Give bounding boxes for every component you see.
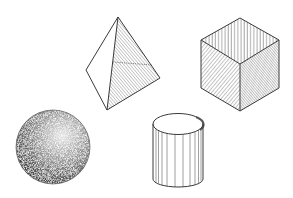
tetrahedron-shape [86, 17, 160, 110]
sphere-body [16, 110, 90, 184]
cylinder-top-face [153, 114, 203, 135]
cylinder-shape [153, 114, 204, 188]
geometric-shapes-diagram [0, 0, 293, 198]
sphere-shape [16, 110, 90, 184]
cube-shape [201, 18, 279, 111]
